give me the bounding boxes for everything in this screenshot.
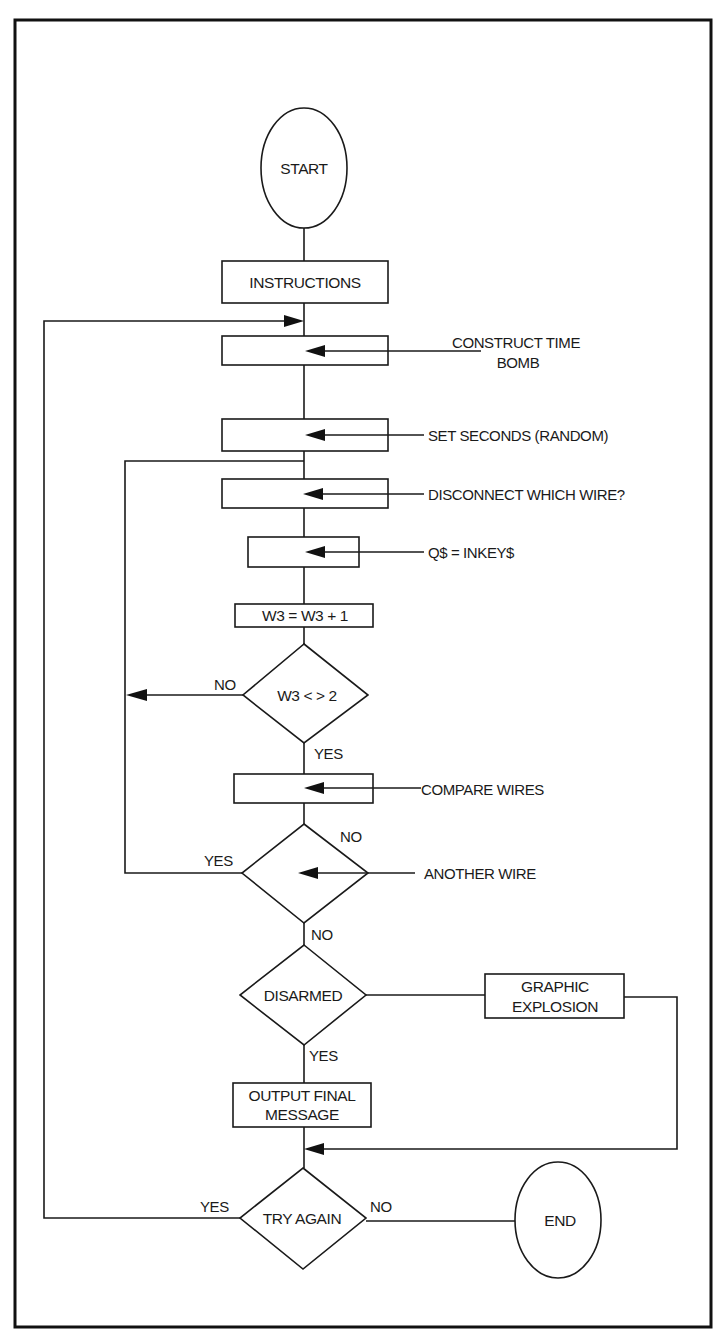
- disconnect-annotation: DISCONNECT WHICH WIRE?: [428, 486, 625, 503]
- increment-label: W3 = W3 + 1: [262, 607, 348, 624]
- explosion-label-line1: GRAPHIC: [521, 978, 589, 995]
- explosion-return-line: [318, 997, 677, 1149]
- outer-frame: [15, 20, 711, 1327]
- output-final-label-line2: MESSAGE: [265, 1106, 339, 1123]
- check-w3-yes-label: YES: [314, 745, 343, 762]
- construct-annotation-line1: CONSTRUCT TIME: [452, 334, 580, 351]
- try-again-yes-label: YES: [200, 1198, 229, 1215]
- compare-annotation: COMPARE WIRES: [421, 781, 544, 798]
- inkey-annotation: Q$ = INKEY$: [428, 544, 515, 561]
- instructions-label: INSTRUCTIONS: [249, 274, 361, 291]
- explosion-label-line2: EXPLOSION: [512, 998, 598, 1015]
- arrow-right-icon: [284, 315, 304, 327]
- set-seconds-annotation: SET SECONDS (RANDOM): [428, 427, 608, 444]
- disarmed-yes-label: YES: [309, 1047, 338, 1064]
- another-wire-annotation: ANOTHER WIRE: [424, 865, 536, 882]
- check-w3-label: W3 < > 2: [277, 687, 337, 704]
- check-w3-no-label: NO: [214, 676, 236, 693]
- try-again-no-label: NO: [370, 1198, 392, 1215]
- start-label: START: [280, 160, 328, 177]
- arrow-left-icon: [126, 689, 147, 701]
- flowchart-canvas: START INSTRUCTIONS CONSTRUCT TIME BOMB S…: [0, 0, 722, 1338]
- end-label: END: [544, 1212, 576, 1229]
- arrow-left-icon: [304, 1143, 324, 1155]
- try-again-label: TRY AGAIN: [263, 1210, 342, 1227]
- another-wire-no-bottom-label: NO: [311, 926, 333, 943]
- output-final-label-line1: OUTPUT FINAL: [249, 1087, 357, 1104]
- another-wire-yes-label: YES: [204, 852, 233, 869]
- construct-annotation-line2: BOMB: [497, 354, 540, 371]
- another-wire-no-label: NO: [340, 828, 362, 845]
- disarmed-label: DISARMED: [264, 987, 343, 1004]
